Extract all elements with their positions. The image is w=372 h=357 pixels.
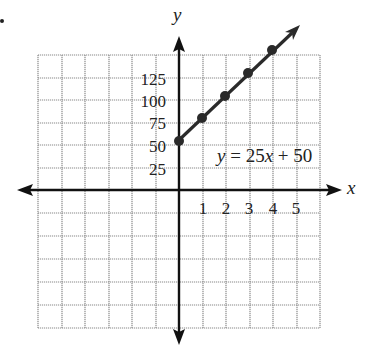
y-tick-label: 125 <box>141 70 167 89</box>
data-point <box>220 91 230 101</box>
y-tick-labels: 125 100 75 50 25 <box>141 70 167 179</box>
data-point <box>243 68 253 78</box>
y-tick-label: 100 <box>141 92 167 111</box>
y-axis-label: y <box>171 4 182 25</box>
equation-label: y = 25x + 50 <box>215 145 312 166</box>
data-point <box>197 113 207 123</box>
x-tick-label: 4 <box>269 199 278 218</box>
graph: y x 125 100 75 50 25 1 2 3 4 5 y = 25x +… <box>0 0 372 357</box>
x-tick-label: 3 <box>245 199 254 218</box>
y-tick-label: 50 <box>149 137 166 156</box>
x-tick-label: 5 <box>292 199 301 218</box>
data-point <box>174 136 184 146</box>
problem-marker <box>0 19 4 23</box>
x-axis-label: x <box>346 177 356 198</box>
y-tick-label: 25 <box>149 160 166 179</box>
equation-label-data: y = 25x + 50 <box>0 0 6 1</box>
x-tick-label: 1 <box>199 199 208 218</box>
data-point <box>267 45 277 55</box>
x-tick-labels: 1 2 3 4 5 <box>199 199 301 218</box>
x-tick-label: 2 <box>222 199 231 218</box>
y-tick-label: 75 <box>149 114 166 133</box>
